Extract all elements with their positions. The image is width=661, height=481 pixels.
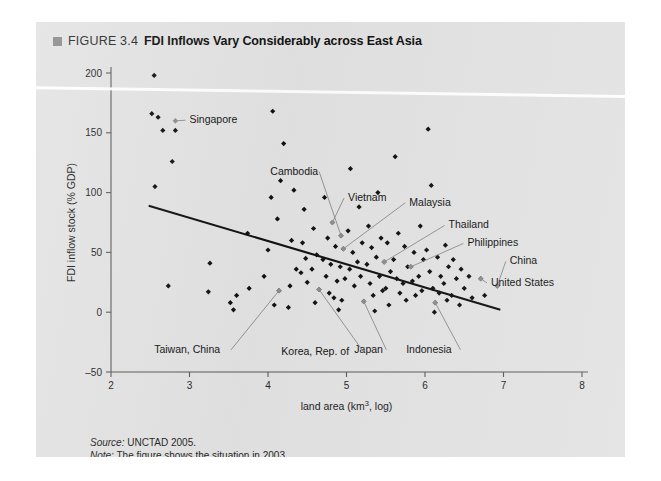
data-point xyxy=(311,226,316,231)
annotation-label: Indonesia xyxy=(406,343,452,355)
data-point xyxy=(207,261,212,266)
y-axis-title: FDI inflow stock (% GDP) xyxy=(65,163,77,282)
data-point xyxy=(228,300,233,305)
data-point xyxy=(470,295,475,300)
data-point xyxy=(466,274,471,279)
data-point xyxy=(393,154,398,159)
data-point xyxy=(152,73,157,78)
data-point xyxy=(342,276,347,281)
y-tick-label: 50 xyxy=(91,247,103,258)
data-point xyxy=(416,274,421,279)
data-point xyxy=(462,286,467,291)
annotation-label: Singapore xyxy=(190,113,238,125)
data-point xyxy=(459,267,464,272)
data-point xyxy=(378,235,383,240)
data-point xyxy=(367,281,372,286)
annotation-leader-line xyxy=(481,279,487,283)
data-point xyxy=(356,204,361,209)
data-point xyxy=(333,244,338,249)
data-point xyxy=(287,283,292,288)
scatter-chart: –500501001502002345678FDI inflow stock (… xyxy=(36,22,625,457)
data-point xyxy=(323,274,328,279)
data-point xyxy=(269,195,274,200)
y-tick-label: 200 xyxy=(85,68,102,79)
data-point xyxy=(438,274,443,279)
data-points-group xyxy=(149,73,500,315)
annotation-leader-line xyxy=(175,120,185,121)
annotation-label: Malaysia xyxy=(409,196,451,208)
data-point xyxy=(234,293,239,298)
data-point xyxy=(328,262,333,267)
data-point xyxy=(272,302,277,307)
data-point xyxy=(404,298,409,303)
data-point xyxy=(275,216,280,221)
x-tick-label: 7 xyxy=(501,380,507,391)
data-point xyxy=(443,243,448,248)
data-point xyxy=(170,159,175,164)
data-point xyxy=(298,270,303,275)
annotation-leader-line xyxy=(319,172,341,236)
data-point xyxy=(454,276,459,281)
data-point xyxy=(322,195,327,200)
x-tick-label: 3 xyxy=(187,380,193,391)
data-point xyxy=(302,207,307,212)
x-axis-title: land area (km3, log) xyxy=(301,399,393,413)
data-point xyxy=(350,250,355,255)
data-point xyxy=(446,264,451,269)
annotated-point-marker xyxy=(408,264,414,270)
y-tick-label: –50 xyxy=(85,367,102,378)
annotation-leader-line xyxy=(231,291,279,350)
data-point xyxy=(152,184,157,189)
note-text: The figure shows the situation in 2003. xyxy=(114,450,288,457)
x-tick-label: 4 xyxy=(265,380,271,391)
data-point xyxy=(385,240,390,245)
annotation-label: Taiwan, China xyxy=(154,343,220,355)
annotation-leader-line xyxy=(411,243,464,266)
data-point xyxy=(348,166,353,171)
data-point xyxy=(482,293,487,298)
data-point xyxy=(397,290,402,295)
data-point xyxy=(418,223,423,228)
data-point xyxy=(358,274,363,279)
data-point xyxy=(278,178,283,183)
data-point xyxy=(294,267,299,272)
annotation-label: Vietnam xyxy=(348,191,387,203)
data-point xyxy=(265,247,270,252)
annotation-leader-line xyxy=(384,225,444,261)
annotation-label: Cambodia xyxy=(270,165,318,177)
figure-notes: Source: UNCTAD 2005. Note: The figure sh… xyxy=(90,436,288,457)
data-point xyxy=(247,286,252,291)
data-point xyxy=(160,128,165,133)
data-point xyxy=(426,127,431,132)
data-point xyxy=(427,269,432,274)
data-point xyxy=(419,288,424,293)
annotation-leader-line xyxy=(332,198,344,223)
data-point xyxy=(424,247,429,252)
data-point xyxy=(386,302,391,307)
data-point xyxy=(444,298,449,303)
data-point xyxy=(432,310,437,315)
source-note: Source: UNCTAD 2005. xyxy=(90,436,288,449)
annotation-label: Korea, Rep. of xyxy=(281,345,349,357)
figure-panel: FIGURE 3.4 FDI Inflows Vary Considerably… xyxy=(36,22,625,457)
data-point xyxy=(347,267,352,272)
source-label: Source: xyxy=(90,437,124,448)
source-text: UNCTAD 2005. xyxy=(124,437,196,448)
data-point xyxy=(206,289,211,294)
data-point xyxy=(156,115,161,120)
x-tick-label: 2 xyxy=(108,380,114,391)
data-point xyxy=(338,264,343,269)
annotated-point-marker xyxy=(361,299,367,305)
data-point xyxy=(413,293,418,298)
data-point xyxy=(374,255,379,260)
annotation-label: Philippines xyxy=(467,236,518,248)
y-tick-label: 0 xyxy=(96,307,102,318)
data-point xyxy=(261,274,266,279)
data-point xyxy=(345,228,350,233)
annotation-label: Thailand xyxy=(449,218,489,230)
data-point xyxy=(355,259,360,264)
figure-note: Note: The figure shows the situation in … xyxy=(90,449,288,457)
x-tick-label: 5 xyxy=(344,380,350,391)
data-point xyxy=(231,307,236,312)
annotated-point-marker xyxy=(381,259,387,265)
